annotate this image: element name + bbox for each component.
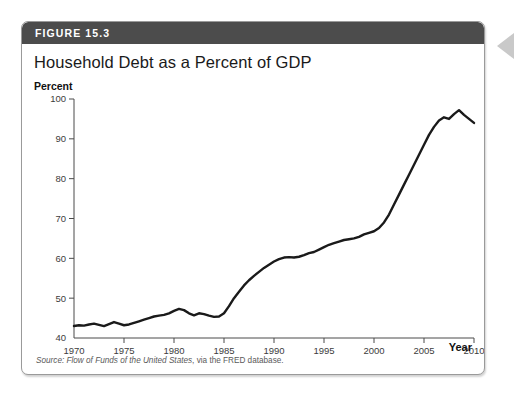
- y-axis: 405060708090100: [50, 93, 74, 343]
- svg-text:2005: 2005: [413, 345, 434, 356]
- figure-card: FIGURE 15.3 Household Debt as a Percent …: [21, 21, 485, 375]
- svg-text:1970: 1970: [63, 345, 84, 356]
- svg-text:1980: 1980: [163, 345, 184, 356]
- plot-area: 405060708090100 197019751980198519901995…: [22, 22, 485, 375]
- side-marker-triangle-icon: [497, 33, 514, 59]
- source-note: Source: Flow of Funds of the United Stat…: [36, 356, 284, 365]
- source-publication-title: Flow of Funds of the United States: [67, 356, 193, 365]
- svg-text:80: 80: [55, 173, 66, 184]
- svg-text:50: 50: [55, 293, 66, 304]
- svg-text:1995: 1995: [313, 345, 334, 356]
- svg-text:2000: 2000: [363, 345, 384, 356]
- line-chart-svg: 405060708090100 197019751980198519901995…: [22, 22, 485, 375]
- svg-text:1990: 1990: [263, 345, 284, 356]
- data-series-line: [74, 110, 474, 326]
- svg-text:60: 60: [55, 253, 66, 264]
- svg-text:1985: 1985: [213, 345, 234, 356]
- source-remainder: , via the FRED database.: [192, 356, 283, 365]
- svg-text:40: 40: [55, 332, 66, 343]
- svg-text:100: 100: [50, 93, 66, 104]
- svg-text:70: 70: [55, 213, 66, 224]
- x-axis-title-label: Year: [449, 341, 472, 353]
- svg-text:90: 90: [55, 133, 66, 144]
- source-label: Source:: [36, 356, 64, 365]
- svg-text:1975: 1975: [113, 345, 134, 356]
- x-axis: 197019751980198519901995200020052010: [63, 338, 484, 356]
